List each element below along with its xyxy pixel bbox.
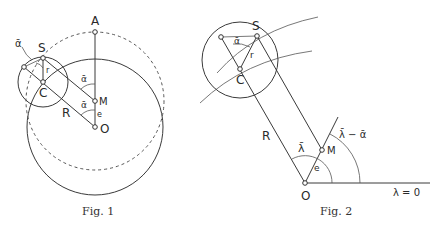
label-c: C [39, 86, 47, 100]
line-c-o [221, 37, 305, 183]
label-e: e [314, 163, 320, 173]
label-o: O [100, 122, 109, 136]
point-m [320, 148, 325, 153]
angle-arc-lambda-minus-alpha [330, 134, 360, 183]
label-s: S [252, 19, 260, 33]
caption-fig-2: Fig. 2 [320, 205, 352, 218]
label-alpha-left: ᾱ [15, 38, 22, 49]
label-alpha-upper: ᾱ [81, 74, 87, 84]
point-o [303, 181, 308, 186]
line-s-c [240, 36, 257, 69]
angle-arc-small [36, 63, 43, 68]
point-c [41, 80, 46, 85]
label-r-small: r [250, 50, 254, 60]
label-a: A [91, 14, 100, 28]
leader-line [22, 47, 32, 60]
label-m: M [327, 145, 336, 156]
caption-fig-1: Fig. 1 [82, 205, 114, 218]
point-p [219, 35, 224, 40]
point-a [93, 30, 98, 35]
label-alpha: ᾱ [234, 36, 240, 46]
orbit-arc-c [200, 51, 312, 103]
point-s [255, 34, 260, 39]
point-c [238, 67, 243, 72]
point-s [41, 56, 46, 61]
angle-arc-upper [81, 84, 95, 89]
label-e: e [97, 110, 102, 119]
label-s: S [38, 41, 46, 55]
figure-2: S C M O R r e ᾱ λ̄ λ̄ − ᾱ λ = 0 Fig. 2 [200, 17, 430, 218]
label-r-small: r [46, 66, 50, 75]
label-o: O [301, 189, 310, 203]
label-r-big: R [262, 129, 270, 143]
label-r-big: R [62, 106, 70, 120]
label-alpha-lower: ᾱ [81, 100, 87, 110]
diagram-canvas: A S C M O R r e ᾱ ᾱ ᾱ Fig. 1 [0, 0, 442, 230]
point-m [93, 99, 98, 104]
label-m: M [99, 96, 108, 107]
label-c: C [236, 73, 244, 87]
label-lambda-minus-alpha: λ̄ − ᾱ [339, 128, 367, 140]
figure-1: A S C M O R r e ᾱ ᾱ ᾱ Fig. 1 [15, 14, 164, 218]
label-lambda: λ̄ [298, 142, 305, 155]
angle-arc-lower [81, 110, 95, 115]
orbit-arc-s [217, 17, 318, 73]
label-lambda-zero: λ = 0 [393, 187, 420, 198]
point-p [22, 65, 27, 70]
point-o [93, 125, 98, 130]
